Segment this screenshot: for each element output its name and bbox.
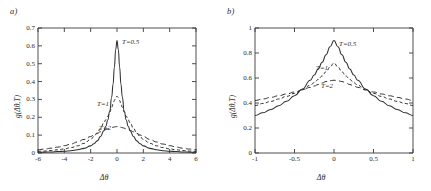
- panel-b-ytick-3: 0.6: [230, 74, 252, 82]
- panel-a-yticks: [38, 28, 196, 153]
- panel-a-xtick-5: 4: [160, 155, 180, 163]
- panel-a-curve-label-T1: T=1: [97, 100, 109, 108]
- panel-a-xtick-6: 6: [186, 155, 206, 163]
- panel-b-ytick-4: 0.8: [230, 49, 252, 57]
- panel-a-xtick-2: -2: [81, 155, 101, 163]
- panel-a-ytick-6: 0.6: [13, 42, 35, 50]
- panel-b-ytick-1: 0.2: [230, 124, 252, 132]
- panel-a-xticks: [38, 28, 196, 153]
- panel-a-xtick-4: 2: [133, 155, 153, 163]
- panel-b-curve-label-T1: T=1: [316, 64, 328, 72]
- panel-b-xtick-3: 0.5: [364, 155, 384, 163]
- panel-b-ytick-5: 1: [230, 24, 252, 32]
- panel-a-ytick-1: 0.1: [13, 131, 35, 139]
- curve-a-T1: [38, 96, 196, 151]
- panel-b-curves: [255, 41, 413, 116]
- curve-b-T05: [255, 41, 413, 116]
- panel-b-ytick-2: 0.4: [230, 99, 252, 107]
- panel-a-ytick-4: 0.4: [13, 78, 35, 86]
- curve-a-T2: [38, 127, 196, 150]
- panel-a-curve-label-T2: T=2: [99, 124, 111, 132]
- panel-b-axes: [255, 28, 413, 153]
- panel-a-curve-label-T05: T=0.5: [122, 38, 139, 46]
- panel-a: a) g(Δθ,T) Δθ: [0, 0, 215, 191]
- panel-a-xtick-3: 0: [107, 155, 127, 163]
- panel-b-curve-label-T05: T=0.5: [339, 40, 356, 48]
- panel-a-ytick-0: 0: [13, 149, 35, 157]
- curve-b-T2: [255, 80, 413, 100]
- figure-container: a) g(Δθ,T) Δθ: [0, 0, 431, 191]
- panel-a-axes: [38, 28, 196, 153]
- panel-a-ytick-3: 0.3: [13, 95, 35, 103]
- panel-b: b) g(Δθ,T) Δθ: [215, 0, 430, 191]
- curve-b-T1: [255, 63, 413, 106]
- panel-b-xtick-1: -0.5: [285, 155, 305, 163]
- panel-b-xticks: [255, 28, 413, 153]
- panel-a-xtick-1: -4: [54, 155, 74, 163]
- panel-a-curves: [38, 41, 196, 153]
- panel-a-ytick-2: 0.2: [13, 113, 35, 121]
- panel-b-xtick-4: 1: [403, 155, 423, 163]
- panel-b-curve-label-T2: T=2: [321, 82, 333, 90]
- panel-a-ytick-7: 0.7: [13, 24, 35, 32]
- panel-a-ytick-5: 0.5: [13, 60, 35, 68]
- panel-b-xtick-2: 0: [324, 155, 344, 163]
- panel-b-yticks: [255, 28, 413, 153]
- panel-b-ytick-0: 0: [230, 149, 252, 157]
